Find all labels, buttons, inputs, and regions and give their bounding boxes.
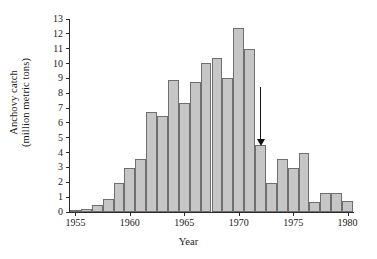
y-tick-mark <box>66 167 70 168</box>
bar <box>190 82 201 212</box>
bar <box>342 201 353 212</box>
y-tick-label: 10 <box>53 58 66 68</box>
x-tick-label: 1980 <box>338 217 358 228</box>
arrow-shaft <box>260 87 261 139</box>
x-tick-label: 1965 <box>174 217 194 228</box>
y-tick-mark <box>66 19 70 20</box>
bar <box>179 103 190 212</box>
bar <box>320 193 331 212</box>
x-tick-mark <box>130 212 131 216</box>
y-tick-mark <box>66 93 70 94</box>
y-tick-mark <box>66 108 70 109</box>
x-axis-label: Year <box>0 236 377 247</box>
x-tick-label: 1955 <box>65 217 85 228</box>
y-tick-mark <box>66 197 70 198</box>
bar <box>146 112 157 212</box>
bar <box>135 159 146 212</box>
y-tick-mark <box>66 182 70 183</box>
x-axis-line <box>69 212 354 213</box>
bar <box>309 202 320 212</box>
bar <box>114 183 125 212</box>
bar <box>299 153 310 212</box>
bar <box>244 49 255 212</box>
x-tick-label: 1970 <box>229 217 249 228</box>
y-tick-mark <box>66 78 70 79</box>
bar <box>103 199 114 212</box>
bar <box>124 168 135 212</box>
y-tick-mark <box>66 122 70 123</box>
y-tick-label: 9 <box>58 73 66 83</box>
y-tick-mark <box>66 152 70 153</box>
y-tick-label: 8 <box>58 88 66 98</box>
arrow-head <box>257 139 265 146</box>
bar <box>212 58 223 212</box>
anchovy-catch-chart: Anchovy catch (million metric tons) Year… <box>0 0 377 259</box>
bar <box>222 78 233 212</box>
y-tick-label: 6 <box>58 117 66 127</box>
bar <box>168 80 179 212</box>
y-tick-label: 7 <box>58 103 66 113</box>
y-tick-label: 13 <box>53 14 66 24</box>
bar <box>70 210 81 212</box>
y-axis-label-line1: Anchovy catch <box>8 58 21 147</box>
plot-area: 012345678910111213 195519601965197019751… <box>70 19 353 212</box>
y-axis-label: Anchovy catch (million metric tons) <box>0 0 40 232</box>
bar <box>266 183 277 212</box>
bar <box>288 168 299 212</box>
bar <box>255 145 266 212</box>
x-tick-mark <box>184 212 185 216</box>
bar <box>201 63 212 212</box>
bar <box>277 159 288 212</box>
y-tick-mark <box>66 137 70 138</box>
y-tick-mark <box>66 33 70 34</box>
y-tick-label: 12 <box>53 28 66 38</box>
y-tick-label: 4 <box>58 147 66 157</box>
y-tick-label: 5 <box>58 132 66 142</box>
bar <box>331 193 342 212</box>
x-tick-mark <box>348 212 349 216</box>
x-tick-mark <box>75 212 76 216</box>
x-tick-mark <box>239 212 240 216</box>
x-tick-label: 1960 <box>120 217 140 228</box>
bar <box>157 116 168 213</box>
bar <box>81 209 92 212</box>
bar <box>92 205 103 212</box>
x-tick-mark <box>293 212 294 216</box>
y-tick-label: 11 <box>53 43 66 53</box>
y-tick-mark <box>66 63 70 64</box>
bar <box>233 28 244 212</box>
y-tick-label: 1 <box>58 192 66 202</box>
y-tick-mark <box>66 48 70 49</box>
x-tick-label: 1975 <box>283 217 303 228</box>
y-tick-label: 0 <box>58 207 66 217</box>
y-tick-label: 3 <box>58 162 66 172</box>
y-axis-label-line2: (million metric tons) <box>20 58 33 147</box>
y-tick-label: 2 <box>58 177 66 187</box>
